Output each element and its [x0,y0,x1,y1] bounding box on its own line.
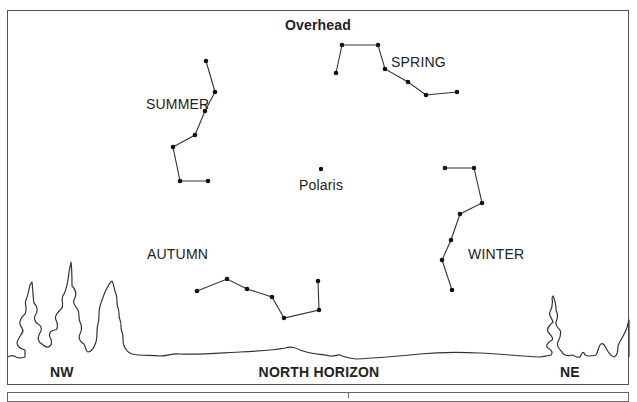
star-dot [195,289,200,294]
star-dot [458,212,463,217]
star-dot [443,166,448,171]
star-dot [245,287,250,292]
polaris-star [319,167,323,171]
star-dot [406,80,411,85]
star-dot [440,258,445,263]
star-dot [317,308,322,313]
nw-label: NW [50,364,74,380]
star-dot [480,201,485,206]
winter-constellation-line [442,168,482,290]
star-dot [383,67,388,72]
summer-constellation-line [173,61,215,181]
star-dot [270,295,275,300]
lower-panel [7,392,629,402]
star-dot [455,90,460,95]
star-dot [334,71,339,76]
lower-panel-divider [348,392,349,398]
star-dot [171,145,176,150]
spring-constellation-line [336,45,457,95]
polaris-label: Polaris [299,177,343,193]
star-dot [449,238,454,243]
star-dot [340,43,345,48]
summer-label: SUMMER [146,96,209,112]
star-dot [178,179,183,184]
star-dot [450,288,455,293]
star-dot [213,90,218,95]
star-dot [193,133,198,138]
star-dot [206,179,211,184]
autumn-label: AUTUMN [147,246,208,262]
overhead-label: Overhead [285,17,351,33]
star-dot [376,43,381,48]
star-dot [282,316,287,321]
spring-label: SPRING [391,54,446,70]
autumn-constellation-line [197,279,319,318]
star-dot [472,166,477,171]
star-dot [316,279,321,284]
star-dot [424,93,429,98]
star-dot [225,277,230,282]
star-dot [204,59,209,64]
ne-label: NE [560,364,580,380]
north-horizon-label: NORTH HORIZON [259,364,380,380]
winter-label: WINTER [468,246,524,262]
